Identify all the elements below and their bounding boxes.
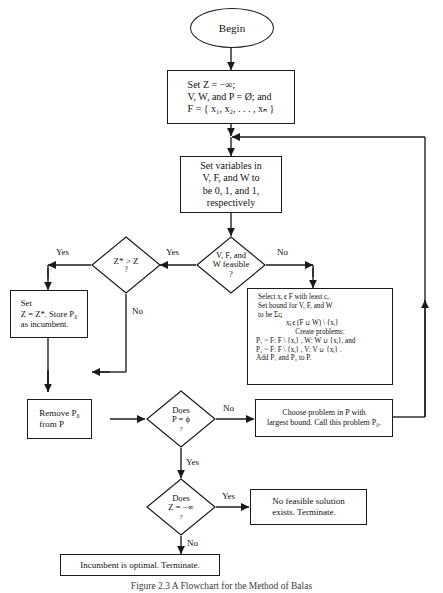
node-begin-label: Begin bbox=[219, 22, 245, 34]
choose-problem-line-2: largest bound. Call this problem P₀. bbox=[267, 418, 381, 428]
node-set-variables-line-3: be 0, 1, and 1, bbox=[200, 185, 262, 197]
incumbent-optimal-line-1: Incumbent is optimal. Terminate. bbox=[80, 560, 199, 571]
node-choose-problem[interactable]: Choose problem in P with largest bound. … bbox=[255, 399, 393, 437]
node-init-line-3: F = { x₁, x₂, . . . , xₙ } bbox=[188, 103, 275, 115]
edge-label-p-empty-no: No bbox=[223, 404, 234, 413]
edge-label-feasible-yes: Yes bbox=[166, 248, 179, 257]
remove-p0-line-1: Remove P₀ bbox=[39, 408, 79, 419]
node-init-line-2: V, W, and P = Ø; and bbox=[188, 91, 275, 103]
p-empty-line-3: ? bbox=[179, 425, 182, 433]
node-set-variables-line-1: Set variables in bbox=[200, 160, 262, 172]
flowchart-canvas: Begin Set Z = −∞; V, W, and P = Ø; and F… bbox=[0, 0, 443, 593]
store-incumbent-line-3: as incumbent. bbox=[21, 319, 77, 329]
zstar-line-2: ? bbox=[124, 266, 127, 274]
branch-line-2: Set bound for V, F, and W bbox=[252, 302, 388, 311]
branch-line-6: P₁ ~ F: F \ {xᵢ} , W: W ∪ {xᵢ}, and bbox=[252, 337, 388, 346]
node-branch-box[interactable]: Select xᵢ ϵ F with least cᵢ. Set bound f… bbox=[247, 288, 393, 385]
branch-line-4: xⱼ ϵ (F ∪ W) \ {xᵢ} bbox=[252, 319, 388, 328]
node-p-empty-test-text: Does P = ϕ ? bbox=[146, 390, 216, 448]
edge-label-p-empty-yes: Yes bbox=[186, 458, 199, 467]
node-feasible-test[interactable]: V, F, and W feasible ? bbox=[196, 236, 266, 294]
node-init[interactable]: Set Z = −∞; V, W, and P = Ø; and F = { x… bbox=[167, 70, 295, 124]
node-feasible-test-text: V, F, and W feasible ? bbox=[196, 236, 266, 294]
store-incumbent-line-2: Z = Z*. Store P₀ bbox=[21, 309, 77, 319]
node-remove-p0[interactable]: Remove P₀ from P bbox=[27, 399, 92, 439]
node-choose-problem-text: Choose problem in P with largest bound. … bbox=[263, 406, 385, 430]
branch-line-3: to be Σcⱼ bbox=[252, 311, 388, 320]
z-neg-line-3: ? bbox=[179, 513, 182, 521]
node-set-variables[interactable]: Set variables in V, F, and W to be 0, 1,… bbox=[180, 156, 282, 213]
node-incumbent-optimal[interactable]: Incumbent is optimal. Terminate. bbox=[60, 554, 220, 576]
edge-label-feasible-no: No bbox=[277, 248, 288, 257]
node-store-incumbent[interactable]: Set Z = Z*. Store P₀ as incumbent. bbox=[10, 290, 88, 338]
branch-line-5: Create problems: bbox=[252, 328, 388, 337]
edge-label-z-neg-no: No bbox=[187, 539, 198, 548]
node-zstar-test-text: Z* > Z ? bbox=[91, 236, 161, 294]
node-zstar-test[interactable]: Z* > Z ? bbox=[91, 236, 161, 294]
p-empty-line-2: P = ϕ bbox=[172, 415, 190, 425]
zstar-line-1: Z* > Z bbox=[113, 256, 138, 266]
node-no-feasible-solution-text: No feasible solution exists. Terminate. bbox=[268, 494, 349, 520]
edge-label-zstar-no: No bbox=[132, 307, 143, 316]
node-set-variables-line-2: V, F, and W to bbox=[200, 172, 262, 184]
choose-problem-line-1: Choose problem in P with bbox=[267, 408, 381, 418]
node-store-incumbent-text: Set Z = Z*. Store P₀ as incumbent. bbox=[17, 296, 81, 331]
z-neg-line-2: Z = −∞ bbox=[168, 503, 193, 513]
branch-line-1: Select xᵢ ϵ F with least cᵢ. bbox=[252, 293, 388, 302]
node-remove-p0-text: Remove P₀ from P bbox=[35, 406, 83, 432]
branch-line-8: Add P₁ and P₂ to P. bbox=[252, 354, 388, 363]
store-incumbent-line-1: Set bbox=[21, 298, 77, 308]
edge-label-zstar-yes: Yes bbox=[56, 248, 69, 257]
node-incumbent-optimal-text: Incumbent is optimal. Terminate. bbox=[76, 558, 203, 573]
no-feasible-line-2: exists. Terminate. bbox=[272, 507, 345, 518]
node-set-variables-text: Set variables in V, F, and W to be 0, 1,… bbox=[196, 158, 266, 211]
edge-label-z-neg-yes: Yes bbox=[222, 492, 235, 501]
no-feasible-line-1: No feasible solution bbox=[272, 496, 345, 507]
node-no-feasible-solution[interactable]: No feasible solution exists. Terminate. bbox=[250, 489, 367, 525]
feasible-line-3: ? bbox=[229, 270, 233, 280]
remove-p0-line-2: from P bbox=[39, 419, 79, 430]
node-begin[interactable]: Begin bbox=[190, 8, 274, 48]
node-branch-box-text: Select xᵢ ϵ F with least cᵢ. Set bound f… bbox=[248, 289, 392, 365]
node-z-neg-inf-test-text: Does Z = −∞ ? bbox=[146, 478, 216, 536]
node-set-variables-line-4: respectively bbox=[200, 197, 262, 209]
node-p-empty-test[interactable]: Does P = ϕ ? bbox=[146, 390, 216, 448]
node-init-line-1: Set Z = −∞; bbox=[188, 79, 275, 91]
figure-caption: Figure 2.3 A Flowchart for the Method of… bbox=[0, 581, 443, 591]
branch-line-7: P₂ ~ F: F \ {xᵢ} , V: V ∪ {xᵢ} . bbox=[252, 346, 388, 355]
node-init-text: Set Z = −∞; V, W, and P = Ø; and F = { x… bbox=[184, 77, 279, 118]
node-z-neg-inf-test[interactable]: Does Z = −∞ ? bbox=[146, 478, 216, 536]
